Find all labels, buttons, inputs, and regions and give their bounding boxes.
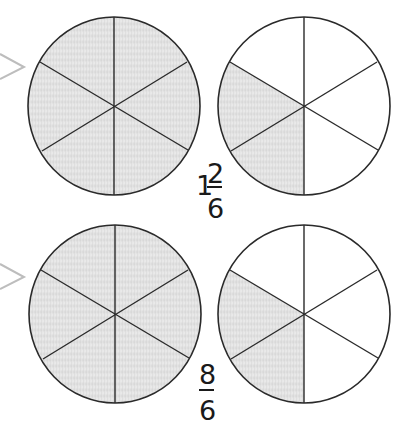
arrow-icon	[0, 264, 24, 289]
label-numerator: 8	[199, 359, 216, 390]
label-denominator: 6	[199, 395, 216, 426]
circle-partial-top	[218, 17, 390, 195]
label-numerator: 2	[207, 158, 224, 189]
improper-fraction-label: 8 6	[199, 359, 216, 426]
mixed-number-label: 1 2 6	[196, 158, 224, 224]
label-denominator: 6	[207, 193, 224, 224]
circle-partial-bottom	[218, 225, 390, 403]
arrow-icon	[0, 54, 24, 79]
circle-whole-bottom	[29, 225, 201, 403]
circle-whole-top	[28, 17, 200, 195]
fraction-diagram: 1 2 6 8 6	[0, 0, 405, 427]
